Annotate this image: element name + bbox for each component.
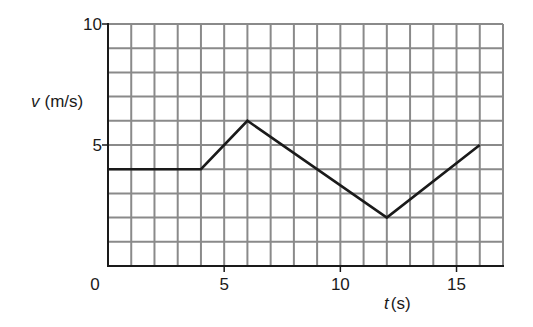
y-axis-label: v(m/s) xyxy=(31,92,83,111)
grid xyxy=(108,24,503,266)
y-tick-label: 5 xyxy=(93,136,102,155)
x-axis-label: t(s) xyxy=(384,294,411,313)
velocity-time-chart: 051015510 v(m/s) t(s) xyxy=(0,0,533,327)
x-tick-label: 15 xyxy=(447,275,466,294)
tick-labels: 051015510 xyxy=(83,15,466,294)
y-tick-label: 10 xyxy=(83,15,102,34)
x-tick-label: 5 xyxy=(219,275,228,294)
x-tick-label: 10 xyxy=(331,275,350,294)
axes xyxy=(102,23,504,272)
x-tick-label: 0 xyxy=(90,275,99,294)
